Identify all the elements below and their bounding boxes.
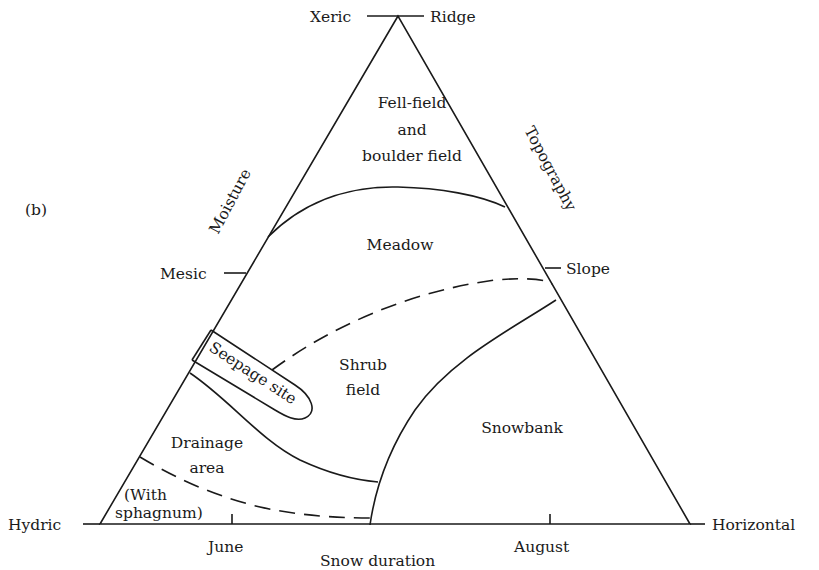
- sphagnum-label-2: sphagnum): [115, 504, 203, 522]
- sphagnum-label-1: (With: [124, 486, 167, 504]
- shrub-label-1: Shrub: [339, 356, 387, 374]
- june-label: June: [206, 538, 243, 556]
- xeric-label: Xeric: [310, 8, 351, 26]
- snow-duration-title: Snow duration: [320, 552, 435, 570]
- august-label: August: [513, 538, 570, 556]
- drainage-label-2: area: [189, 459, 224, 477]
- fell-field-label-1: Fell-field: [378, 94, 447, 112]
- meadow-shrub-dashed-boundary: [272, 279, 552, 370]
- shrub-label-2: field: [346, 381, 380, 399]
- drainage-label-1: Drainage: [171, 434, 243, 452]
- ternary-vegetation-diagram: Xeric Ridge Mesic Slope Hydric Horizonta…: [0, 0, 819, 570]
- topography-title: Topography: [520, 123, 580, 214]
- moisture-title: Moisture: [206, 166, 255, 237]
- hydric-label: Hydric: [8, 516, 61, 534]
- snowbank-boundary: [370, 300, 556, 525]
- horizontal-label: Horizontal: [712, 516, 795, 534]
- fell-field-boundary: [268, 187, 505, 237]
- figure-label: (b): [25, 201, 47, 219]
- meadow-label: Meadow: [367, 236, 435, 254]
- mesic-label: Mesic: [160, 265, 207, 283]
- slope-label: Slope: [566, 260, 610, 278]
- fell-field-label-3: boulder field: [362, 147, 462, 165]
- snowbank-label: Snowbank: [481, 419, 563, 437]
- ridge-label: Ridge: [430, 8, 476, 26]
- fell-field-label-2: and: [397, 121, 426, 139]
- seepage-edge: [192, 330, 211, 360]
